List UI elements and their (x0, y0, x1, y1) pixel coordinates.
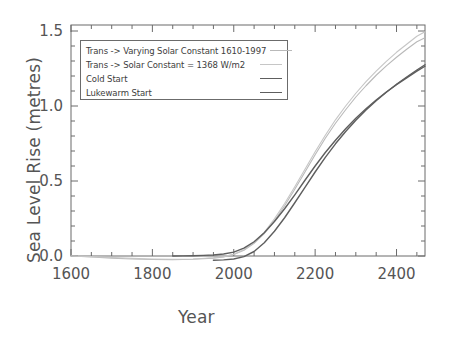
x-tick-label: 2000 (209, 265, 259, 283)
legend-swatch-fixed-solar (260, 64, 282, 65)
legend-item: Trans -> Varying Solar Constant 1610-199… (86, 44, 282, 57)
y-tick-label: 1.5 (29, 22, 63, 40)
x-axis-title: Year (178, 307, 215, 327)
y-tick-label: 0.0 (29, 247, 63, 265)
legend-swatch-cold-start (260, 78, 282, 79)
legend-item: Trans -> Solar Constant = 1368 W/m2 (86, 58, 282, 71)
legend-item-label: Lukewarm Start (86, 88, 256, 98)
legend-item: Lukewarm Start (86, 86, 282, 99)
legend-swatch-lukewarm-start (260, 92, 282, 93)
x-tick-label: 2200 (290, 265, 340, 283)
legend-item-label: Trans -> Varying Solar Constant 1610-199… (86, 46, 266, 56)
x-tick-label: 1800 (127, 265, 177, 283)
y-tick-label: 1.0 (29, 97, 63, 115)
legend-item-label: Trans -> Solar Constant = 1368 W/m2 (86, 60, 256, 70)
legend-swatch-varying-solar (270, 50, 292, 51)
y-tick-label: 0.5 (29, 172, 63, 190)
x-tick-label: 2400 (372, 265, 422, 283)
x-tick-label: 1600 (46, 265, 96, 283)
sea-level-rise-chart: Sea Level Rise (metres) Year 0.00.51.01.… (0, 0, 450, 340)
legend-item: Cold Start (86, 72, 282, 85)
legend-box: Trans -> Varying Solar Constant 1610-199… (80, 40, 288, 100)
y-axis-title: Sea Level Rise (metres) (24, 50, 44, 270)
legend-item-label: Cold Start (86, 74, 256, 84)
